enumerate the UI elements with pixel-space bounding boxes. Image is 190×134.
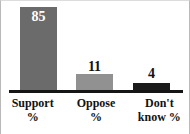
category-label-support: Support % (1, 96, 64, 124)
category-label-support-line2: % (2, 110, 63, 124)
category-label-dontknow-line2: know % (129, 110, 190, 124)
value-label-oppose: 11 (76, 60, 113, 74)
plot-area: 85 11 4 (1, 1, 190, 93)
bar-dontknow (133, 83, 170, 90)
category-label-dontknow: Don't know % (128, 96, 190, 124)
x-axis-line (9, 90, 183, 93)
value-label-support: 85 (20, 10, 57, 24)
category-label-dontknow-line1: Don't (129, 96, 190, 110)
category-axis-labels: Support % Oppose % Don't know % (1, 96, 190, 124)
value-label-dontknow: 4 (133, 67, 170, 81)
bar-chart: 85 11 4 Support % Oppose % Don't know % (0, 0, 190, 134)
category-label-support-line1: Support (2, 96, 63, 110)
category-label-oppose: Oppose % (64, 96, 127, 124)
bar-oppose (76, 74, 113, 90)
category-label-oppose-line1: Oppose (65, 96, 126, 110)
category-label-oppose-line2: % (65, 110, 126, 124)
